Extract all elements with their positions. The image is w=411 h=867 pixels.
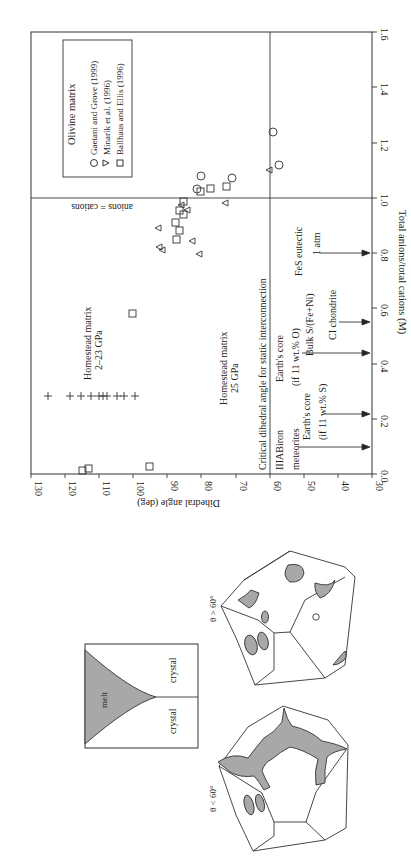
legend-title: Olivine matrix — [66, 83, 77, 145]
core-s-label: Earth's core — [301, 392, 312, 440]
theta-lt-label: θ < 60° — [208, 785, 218, 812]
polyhedron-theta-gt-60: θ > 60° — [208, 551, 355, 685]
arrow-core-s-icon — [362, 411, 370, 417]
series-gaetani — [193, 128, 283, 193]
core-s-label-2: (if 11 wt.% S) — [317, 384, 329, 440]
series-minarik — [155, 167, 272, 257]
svg-text:0.8: 0.8 — [379, 249, 390, 262]
svg-text:1.4: 1.4 — [379, 83, 390, 96]
svg-text:30: 30 — [374, 481, 385, 491]
arrow-iiiab-icon — [362, 444, 370, 450]
crystal-label-upper: crystal — [168, 657, 178, 683]
series-homestead — [44, 392, 139, 400]
arrow-ci-icon — [362, 319, 370, 325]
annotations: Homestead matrix 2–23 GPa Homestead matr… — [82, 226, 338, 470]
core-o-label-2: (if 11 wt.% O) — [290, 328, 302, 386]
homestead-25-pressure: 25 GPa — [229, 363, 240, 393]
ratio-tick-labels: 0.0 0.2 0.4 0.6 0.8 1.0 1.2 1.4 1.6 — [379, 28, 390, 483]
bulk-label: Bulk S/(Fe+Ni) — [304, 293, 316, 356]
iiiab-label-2: meteorites — [290, 428, 301, 470]
homestead-25-label: Homestead matrix — [218, 331, 229, 405]
svg-text:90: 90 — [169, 481, 180, 491]
fes-1atm-label: 1 atm — [311, 232, 322, 255]
legend-item-ballhaus: Ballhaus and Ellis (1996) — [115, 63, 125, 155]
angle-axis-ticks — [31, 474, 372, 478]
legend: Olivine matrix Gaetani and Grove (1999) … — [63, 40, 132, 177]
svg-text:1.2: 1.2 — [379, 139, 390, 152]
arrow-fes-icon — [362, 250, 370, 256]
angle-tick-labels: 130 120 110 100 90 80 70 60 50 40 30 — [33, 481, 385, 496]
svg-text:70: 70 — [238, 481, 249, 491]
square-marker-icon — [117, 160, 123, 166]
polyhedron-theta-lt-60: θ < 60° — [208, 706, 348, 851]
ratio-axis-ticks — [372, 32, 377, 474]
svg-text:1.0: 1.0 — [379, 194, 390, 207]
iiiab-label: IIIABiron — [274, 430, 285, 470]
critical-angle-label: Critical dihedral angle for static inter… — [257, 278, 268, 470]
svg-text:0.2: 0.2 — [379, 415, 390, 428]
svg-text:60: 60 — [272, 481, 283, 491]
legend-item-gaetani: Gaetani and Grove (1999) — [89, 61, 99, 155]
homestead-2-23-label: Homestead matrix — [82, 306, 93, 380]
svg-text:120: 120 — [67, 481, 78, 496]
svg-text:80: 80 — [203, 481, 214, 491]
core-o-label: Earth's core — [274, 334, 285, 382]
svg-text:0.0: 0.0 — [379, 470, 390, 483]
arrow-core-o-icon — [362, 350, 370, 356]
svg-text:0.6: 0.6 — [379, 304, 390, 317]
svg-text:50: 50 — [306, 481, 317, 491]
dihedral-schematic: melt crystal crystal — [85, 644, 198, 748]
circle-marker-icon — [91, 160, 98, 167]
crystal-label-lower: crystal — [168, 708, 178, 734]
legend-item-minarik: Minarik et al. (1996) — [102, 80, 112, 155]
chart: 130 120 110 100 90 80 70 60 50 40 30 0.0… — [31, 28, 408, 509]
svg-text:40: 40 — [340, 481, 351, 491]
svg-text:130: 130 — [33, 481, 44, 496]
series-ballhaus — [79, 183, 230, 474]
ci-chondrite-label: CI chondrite — [327, 289, 338, 340]
x-axis-title: Total anions/total cations (M) — [396, 210, 408, 335]
triangle-marker-icon — [103, 160, 109, 166]
svg-text:1.6: 1.6 — [379, 28, 390, 41]
theta-gt-label: θ > 60° — [208, 595, 218, 622]
svg-text:100: 100 — [135, 481, 146, 496]
svg-text:110: 110 — [101, 481, 112, 496]
homestead-2-23-pressure: 2–23 GPa — [93, 330, 104, 370]
figure: 130 120 110 100 90 80 70 60 50 40 30 0.0… — [0, 0, 411, 867]
fes-eutectic-label: FeS eutectic — [293, 226, 304, 276]
melt-label: melt — [99, 692, 109, 708]
y-axis-title: Dihedral angle (deg) — [137, 497, 220, 509]
svg-text:0.4: 0.4 — [379, 360, 390, 373]
anions-cations-label: anions = cations — [71, 202, 133, 212]
melt-region — [85, 650, 156, 744]
